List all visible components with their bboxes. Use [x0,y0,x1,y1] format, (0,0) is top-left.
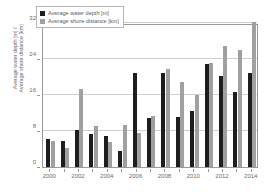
bar-shore-distance [209,63,213,167]
legend-item-shore-distance: Average shore distance [km] [40,17,119,25]
bar-water-depth [133,73,137,168]
bar-group [187,25,201,167]
bar-water-depth [190,111,194,167]
y-tick-label: 24 [29,51,36,57]
x-tick-mark [236,169,237,172]
x-tick-mark [49,169,50,172]
x-tick-label: 2012 [210,173,234,180]
bar-group [173,25,187,167]
bar-shore-distance [123,125,127,167]
bar-group [158,25,172,167]
bar-shore-distance [166,69,170,167]
bar-group [230,25,244,167]
bar-water-depth [233,92,237,167]
bar-group [144,25,158,167]
x-tick-mark [208,169,209,172]
y-tick-label: 0 [33,159,36,165]
x-tick-label: 2002 [66,173,90,180]
bar-group [129,25,143,167]
bar-shore-distance [79,89,83,167]
x-tick-mark [92,169,93,172]
bar-group [201,25,215,167]
bar-shore-distance [151,116,155,167]
x-tick-mark [78,169,79,172]
legend: Average water depth [m] Average shore di… [36,6,124,28]
legend-swatch-icon [40,11,45,16]
bar-shore-distance [94,126,98,167]
x-tick-label: 2004 [95,173,119,180]
bar-water-depth [118,151,122,167]
x-tick-label: 2006 [124,173,148,180]
y-axis: 08162432 [0,24,40,168]
x-tick-label: 2014 [239,173,263,180]
bar-water-depth [176,117,180,167]
bar-group [245,25,259,167]
bar-chart: Average water depth [m] / Average shore … [0,0,267,196]
y-tick-mark [37,95,40,96]
x-tick-mark [251,169,252,172]
x-tick-mark [193,169,194,172]
bar-shore-distance [65,148,69,167]
bar-shore-distance [195,95,199,167]
bar-water-depth [147,118,151,168]
y-tick-label: 16 [29,87,36,93]
bar-water-depth [205,64,209,167]
bar-group [101,25,115,167]
x-tick-mark [107,169,108,172]
bar-water-depth [61,141,65,167]
x-axis: 20002002200420062008201020122014 [42,169,258,183]
legend-swatch-icon [40,19,45,24]
y-tick-label: 8 [33,123,36,129]
bar-water-depth [75,130,79,167]
legend-item-water-depth: Average water depth [m] [40,9,119,17]
x-tick-mark [136,169,137,172]
plot-area [42,24,258,168]
legend-label: Average shore distance [km] [48,18,119,24]
x-tick-mark [164,169,165,172]
x-tick-mark [64,169,65,172]
bar-shore-distance [252,22,256,167]
y-tick-mark [37,167,40,168]
bar-shore-distance [223,46,227,168]
bar-group [86,25,100,167]
bar-water-depth [219,76,223,167]
bar-group [57,25,71,167]
y-tick-label: 32 [29,15,36,21]
x-tick-label: 2010 [181,173,205,180]
bar-shore-distance [108,142,112,167]
bar-shore-distance [180,82,184,167]
x-tick-mark [179,169,180,172]
bar-shore-distance [137,133,141,167]
legend-label: Average water depth [m] [48,10,109,16]
x-tick-mark [121,169,122,172]
bar-group [115,25,129,167]
x-tick-label: 2008 [152,173,176,180]
x-tick-mark [222,169,223,172]
bar-water-depth [161,73,165,168]
bar-water-depth [104,136,108,168]
x-tick-label: 2000 [37,173,61,180]
x-tick-mark [150,169,151,172]
y-tick-mark [37,59,40,60]
bar-shore-distance [238,50,242,167]
bar-group [216,25,230,167]
bar-group [43,25,57,167]
y-tick-mark [37,131,40,132]
bar-water-depth [89,134,93,167]
bar-group [72,25,86,167]
bar-water-depth [46,139,50,167]
bars-layer [43,25,257,167]
bar-shore-distance [51,141,55,167]
bar-water-depth [248,73,252,168]
